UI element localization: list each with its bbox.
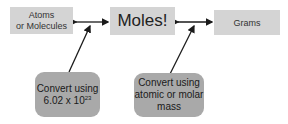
- avogadro-note: Convert using 6.02 x 1023: [35, 72, 100, 117]
- molar-note-line1: Convert using: [138, 77, 200, 89]
- atoms-node: Atoms or Molecules: [10, 7, 73, 34]
- grams-node: Grams: [214, 10, 280, 35]
- atoms-node-line1: Atoms: [29, 10, 55, 21]
- grams-node-label: Grams: [234, 18, 261, 28]
- moles-node: Moles!: [110, 7, 175, 35]
- atoms-node-line2: or Molecules: [16, 21, 67, 32]
- avogadro-note-line2: 6.02 x 1023: [44, 95, 92, 107]
- avogadro-note-line1: Convert using: [37, 83, 99, 95]
- molar-mass-note: Convert using atomic or molar mass: [134, 73, 204, 117]
- moles-node-label: Moles!: [117, 11, 167, 31]
- molar-note-line3: mass: [157, 101, 181, 113]
- molar-note-line2: atomic or molar: [135, 89, 204, 101]
